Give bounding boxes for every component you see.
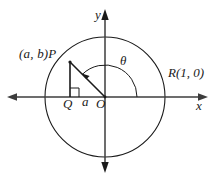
label-point-r: R(1, 0) (168, 66, 204, 79)
unit-circle-figure: (a, b)P y x R(1, 0) θ Q a O (0, 0, 215, 182)
x-axis-left-arrow-icon (7, 93, 17, 101)
y-axis-down-arrow-icon (101, 162, 108, 173)
y-axis-up-arrow-icon (101, 9, 108, 20)
label-angle-theta: θ (120, 54, 126, 67)
label-point-p: (a, b)P (19, 47, 57, 60)
label-axis-y: y (95, 8, 101, 21)
point-marker-p (68, 60, 71, 63)
label-segment-a: a (82, 95, 89, 108)
segment-op (70, 62, 105, 97)
label-point-q: Q (63, 97, 72, 110)
label-axis-x: x (196, 99, 202, 112)
label-point-o: O (96, 97, 105, 110)
figure-canvas (0, 0, 215, 182)
angle-arc-theta (82, 65, 137, 97)
